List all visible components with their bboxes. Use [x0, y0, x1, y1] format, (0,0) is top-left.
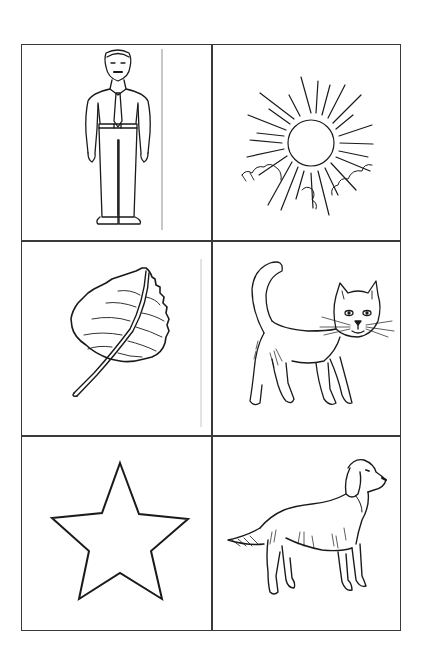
dog-illustration [212, 436, 402, 630]
cell-star: star [22, 436, 211, 630]
cat-illustration [212, 241, 402, 435]
cell-dog: dog [212, 436, 402, 630]
leaf-illustration [22, 241, 211, 435]
cell-cat: cat [212, 241, 402, 435]
picture-grid: man [21, 44, 401, 631]
cell-sun: sun [212, 45, 402, 240]
worksheet-page: man [0, 0, 423, 667]
star-illustration [22, 436, 211, 630]
cell-man: man [22, 45, 211, 240]
sun-illustration [212, 45, 402, 240]
cell-leaf: leaf [22, 241, 211, 435]
man-illustration [22, 45, 211, 240]
